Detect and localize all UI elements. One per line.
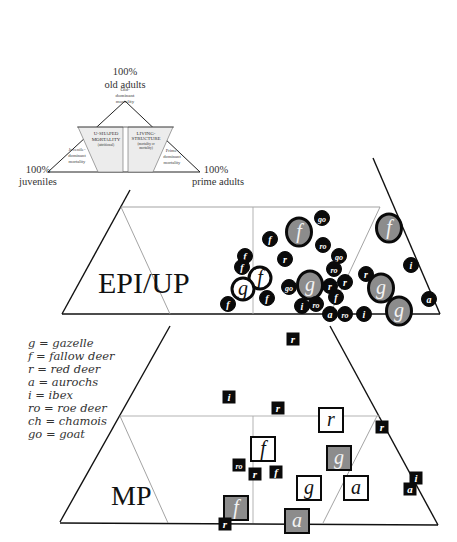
species-legend: g = gazelle f = fallow deer r = red deer… [28,337,115,441]
svg-text:g: g [305,273,315,296]
svg-text:r: r [364,269,368,280]
marker-g: g [327,446,351,470]
marker-r: r [278,252,293,267]
svg-text:i: i [363,309,366,320]
svg-text:r: r [291,333,296,345]
svg-text:i: i [410,260,413,271]
marker-f: f [235,260,250,275]
svg-text:go: go [334,253,343,262]
marker-ro: ro [327,262,342,277]
marker-g: g [298,271,323,299]
marker-ro: ro [233,459,245,471]
marker-r: r [249,468,261,480]
svg-text:a: a [328,309,333,320]
marker-a: a [422,292,437,307]
svg-text:r: r [253,468,258,480]
marker-r: r [338,275,353,290]
marker-r: r [376,421,388,433]
svg-text:r: r [276,402,281,414]
svg-text:ro: ro [341,311,348,320]
svg-text:a: a [407,483,413,495]
marker-g: g [232,277,254,300]
svg-text:r: r [343,277,347,288]
marker-f: f [329,290,344,305]
svg-text:a: a [427,294,432,305]
svg-text:g: g [334,446,344,469]
svg-text:r: r [328,281,332,292]
mp-markers: rirrrfrorfggaiafra [219,333,422,533]
svg-text:g: g [394,299,404,322]
panels-svg: EPI/UP MP goffrogorfffgrogogrrfffiroaroi… [0,0,457,542]
marker-go: go [315,211,330,226]
epi-up-label: EPI/UP [98,266,190,299]
svg-text:r: r [327,408,335,430]
marker-r: r [319,408,343,432]
legend-item-goat: go = goat [28,428,115,441]
marker-i: i [295,299,310,314]
marker-f: f [377,214,402,242]
marker-f: f [221,297,236,312]
marker-a: a [323,307,338,322]
marker-f: f [263,232,278,247]
marker-ro: ro [316,238,331,253]
svg-text:go: go [284,284,293,293]
marker-ro: ro [338,307,353,322]
marker-f: f [260,291,275,306]
marker-f: f [287,218,312,246]
marker-i: i [404,258,419,273]
marker-ro: ro [309,297,324,312]
marker-f: f [270,466,282,478]
svg-text:a: a [292,509,302,531]
marker-f: f [251,437,275,461]
marker-a: a [285,509,309,533]
marker-g: g [387,297,412,325]
mp-label: MP [111,480,151,511]
svg-text:a: a [351,476,361,498]
marker-g: g [369,274,394,302]
svg-text:ro: ro [312,301,319,310]
svg-text:g: g [238,277,248,300]
svg-text:go: go [317,215,326,224]
marker-r: r [287,333,299,345]
marker-f: f [224,496,248,520]
svg-text:ro: ro [319,242,326,251]
marker-a: a [404,483,416,495]
marker-go: go [282,280,297,295]
marker-i: i [223,391,235,403]
marker-g: g [297,476,321,500]
svg-text:i: i [301,301,304,312]
svg-text:r: r [380,421,385,433]
marker-i: i [357,307,372,322]
svg-text:ro: ro [330,266,337,275]
svg-text:r: r [283,254,287,265]
svg-text:r: r [223,518,228,530]
svg-text:g: g [304,476,314,499]
marker-r: r [219,518,231,530]
svg-text:g: g [376,276,386,299]
marker-r: r [272,402,284,414]
svg-text:ro: ro [235,462,242,471]
marker-a: a [344,476,368,500]
